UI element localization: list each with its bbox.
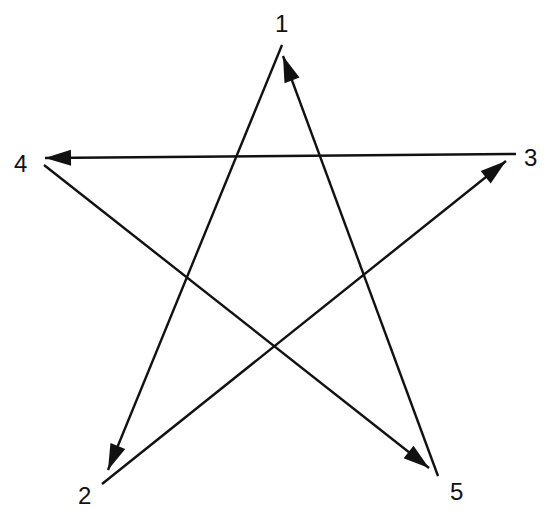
edge-2-to-3 xyxy=(102,161,506,484)
arrowhead-icon xyxy=(481,161,506,183)
node-label-1: 1 xyxy=(275,12,288,36)
arrowhead-icon xyxy=(404,446,429,468)
edge-3-to-4 xyxy=(45,154,516,158)
edge-1-to-2 xyxy=(108,45,282,470)
arrowhead-icon xyxy=(283,56,300,83)
star-diagram xyxy=(0,0,553,514)
arrowhead-icon xyxy=(108,443,125,470)
node-label-2: 2 xyxy=(78,484,91,508)
edge-4-to-5 xyxy=(44,165,429,468)
node-label-5: 5 xyxy=(450,480,463,504)
arrowhead-icon xyxy=(45,150,71,166)
node-label-4: 4 xyxy=(14,152,27,176)
node-label-3: 3 xyxy=(524,146,537,170)
edge-group xyxy=(44,45,516,484)
